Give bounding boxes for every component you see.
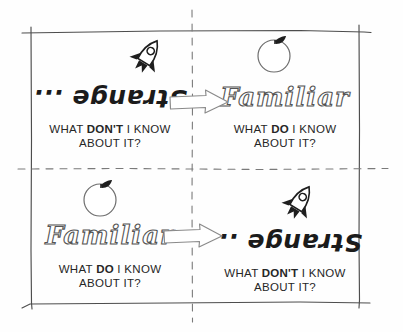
diagram-canvas: Strange ... WHAT DON'T I KNOW ABOUT IT? … [0, 0, 403, 332]
caption-dont-know: WHAT DON'T I KNOW ABOUT IT? [26, 122, 194, 150]
caption-prefix: WHAT [49, 123, 87, 135]
arrow-strange-to-familiar-icon [168, 88, 230, 118]
apple-icon [252, 30, 298, 76]
arrow-familiar-to-strange-icon [162, 222, 224, 252]
caption-line2: ABOUT IT? [79, 137, 141, 149]
caption-line2: ABOUT IT? [254, 137, 316, 149]
caption-do-know: WHAT DO I KNOW ABOUT IT? [26, 262, 194, 290]
caption-prefix: WHAT [224, 267, 262, 279]
caption-prefix: WHAT [234, 123, 272, 135]
caption-dont-know: WHAT DON'T I KNOW ABOUT IT? [196, 266, 374, 294]
caption-suffix: I KNOW [289, 123, 336, 135]
caption-do-know: WHAT DO I KNOW ABOUT IT? [196, 122, 374, 150]
caption-emphasis: DON'T [262, 267, 298, 279]
caption-suffix: I KNOW [123, 123, 170, 135]
caption-emphasis: DO [96, 263, 114, 275]
caption-suffix: I KNOW [114, 263, 161, 275]
caption-prefix: WHAT [59, 263, 97, 275]
caption-emphasis: DON'T [87, 123, 123, 135]
rocket-icon [276, 180, 322, 226]
caption-line2: ABOUT IT? [79, 277, 141, 289]
caption-suffix: I KNOW [298, 267, 345, 279]
caption-emphasis: DO [271, 123, 289, 135]
apple-icon [78, 174, 124, 220]
rocket-icon [124, 34, 170, 80]
caption-line2: ABOUT IT? [254, 281, 316, 293]
